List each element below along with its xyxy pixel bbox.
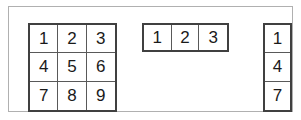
row-vector-cell-c1: 2 xyxy=(172,25,200,50)
column-vector-cell-r1: 4 xyxy=(265,53,290,81)
matrix-cell-r2c1: 8 xyxy=(58,82,86,110)
matrix-cell-r2c2: 9 xyxy=(87,82,115,110)
matrix-cell-r0c2: 3 xyxy=(87,25,115,53)
matrix-cell-r1c1: 5 xyxy=(58,53,86,81)
matrix-cell-r0c0: 1 xyxy=(30,25,58,53)
matrix-cell-r1c0: 4 xyxy=(30,53,58,81)
column-vector-3x1: 1 4 7 xyxy=(263,23,292,112)
column-vector-cell-r2: 7 xyxy=(265,82,290,110)
row-vector-cell-c2: 3 xyxy=(199,25,227,50)
row-vector-1x3: 1 2 3 xyxy=(142,23,229,52)
matrix-cell-r0c1: 2 xyxy=(58,25,86,53)
matrix-cell-r2c0: 7 xyxy=(30,82,58,110)
matrix-3x3: 1 2 3 4 5 6 7 8 9 xyxy=(28,23,117,112)
row-vector-cell-c0: 1 xyxy=(144,25,172,50)
matrix-cell-r1c2: 6 xyxy=(87,53,115,81)
column-vector-cell-r0: 1 xyxy=(265,25,290,53)
diagram-outer-frame: 1 2 3 4 5 6 7 8 9 1 2 3 1 4 7 xyxy=(8,6,293,112)
